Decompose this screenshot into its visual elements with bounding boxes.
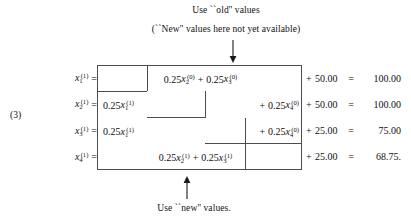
rhs-row-4: + 25.00 = 68.75. bbox=[306, 144, 406, 170]
lhs-superscript-2: (1) bbox=[81, 98, 89, 105]
rhs-equals-4: = bbox=[345, 151, 357, 162]
rhs-plus-1: + bbox=[306, 73, 315, 84]
lhs-superscript-1: (1) bbox=[81, 72, 89, 79]
rhs-row-3: + 25.00 = 75.00 bbox=[306, 118, 406, 144]
lhs-variable-1: x1(1) bbox=[75, 72, 88, 84]
lhs-label-row-2: x2(1) = bbox=[60, 91, 97, 117]
rhs-constant-4: 25.00 bbox=[315, 151, 345, 162]
rhs-row-2: + 50.00 = 100.00 bbox=[306, 91, 406, 117]
arrow-up-icon bbox=[180, 176, 194, 200]
rhs-plus-3: + bbox=[306, 125, 315, 136]
gauss-seidel-equation-figure: Use ``old'' values (``New'' values here … bbox=[0, 0, 411, 222]
annotation-use-new-values: Use ``new'' values. bbox=[0, 203, 411, 214]
rhs-result-3: 75.00 bbox=[357, 125, 401, 136]
rhs-result-2: 100.00 bbox=[357, 99, 401, 110]
rhs-row-1: + 50.00 = 100.00 bbox=[306, 65, 406, 91]
annotation-use-old-values: Use ``old'' values bbox=[0, 5, 411, 16]
rhs-plus-2: + bbox=[306, 99, 315, 110]
rhs-equals-2: = bbox=[345, 99, 357, 110]
lhs-label-row-1: x1(1) = bbox=[60, 65, 97, 91]
rhs-result-1: 100.00 bbox=[357, 73, 401, 84]
equation-number: (3) bbox=[10, 110, 21, 120]
lhs-superscript-3: (1) bbox=[81, 125, 89, 132]
lhs-label-row-4: x4(1) = bbox=[60, 144, 97, 170]
rhs-plus-4: + bbox=[306, 151, 315, 162]
lhs-variable-column: x1(1) = x2(1) = x3(1) = x4(1) = bbox=[60, 65, 97, 170]
rhs-constant-2: 50.00 bbox=[315, 99, 345, 110]
staircase-partition-lines bbox=[97, 65, 302, 170]
arrow-down-icon bbox=[226, 40, 240, 64]
lhs-label-row-3: x3(1) = bbox=[60, 118, 97, 144]
rhs-equals-1: = bbox=[345, 73, 357, 84]
rhs-result-4: 68.75. bbox=[357, 151, 401, 162]
annotation-new-values-not-available: (``New'' values here not yet available) bbox=[0, 24, 411, 35]
rhs-constant-3: 25.00 bbox=[315, 125, 345, 136]
rhs-equals-3: = bbox=[345, 125, 357, 136]
lhs-variable-2: x2(1) bbox=[75, 98, 88, 110]
rhs-constants-column: + 50.00 = 100.00 + 50.00 = 100.00 + 25.0… bbox=[306, 65, 406, 170]
lhs-variable-4: x4(1) bbox=[75, 151, 88, 163]
rhs-constant-1: 50.00 bbox=[315, 73, 345, 84]
lhs-superscript-4: (1) bbox=[81, 151, 89, 158]
lhs-variable-3: x3(1) bbox=[75, 125, 88, 137]
